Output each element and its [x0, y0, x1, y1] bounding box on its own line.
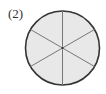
- circle-divided-six: [0, 0, 106, 94]
- center-point: [62, 47, 64, 49]
